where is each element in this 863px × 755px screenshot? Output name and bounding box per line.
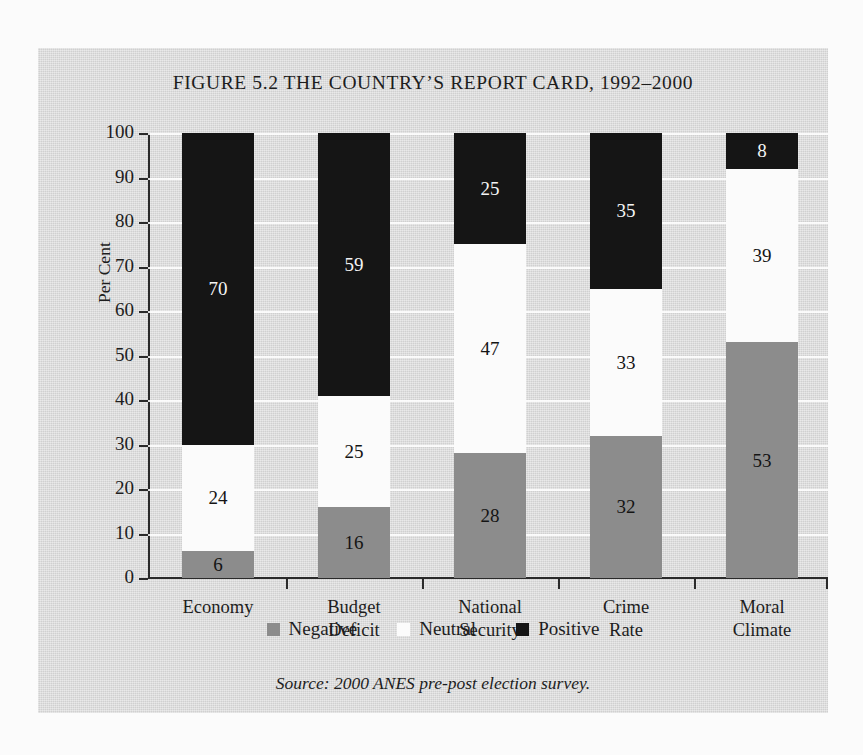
bar-group[interactable]: 53398Moral Climate <box>726 133 798 578</box>
bar-group[interactable]: 323335Crime Rate <box>590 133 662 578</box>
x-axis-tick <box>422 578 424 589</box>
x-axis-tick <box>286 578 288 589</box>
chart-legend: NegativeNeutralPositive <box>38 618 828 640</box>
bar-segment-positive[interactable]: 8 <box>726 133 798 169</box>
bar-segment-neutral[interactable]: 24 <box>182 445 254 552</box>
bar-segment-negative[interactable]: 53 <box>726 342 798 578</box>
legend-swatch-icon <box>516 623 529 636</box>
y-axis-tick <box>139 356 148 358</box>
y-axis-tick <box>139 178 148 180</box>
y-axis-tick <box>139 133 148 135</box>
legend-item[interactable]: Negative <box>267 618 358 640</box>
bar-segment-neutral[interactable]: 33 <box>590 289 662 436</box>
y-axis-tick <box>139 222 148 224</box>
bar-group[interactable]: 162559Budget Deficit <box>318 133 390 578</box>
y-axis-tick <box>139 445 148 447</box>
y-axis-tick <box>139 489 148 491</box>
legend-label: Neutral <box>419 618 476 640</box>
y-axis-tick-label: 60 <box>115 299 134 321</box>
bar-group[interactable]: 62470Economy <box>182 133 254 578</box>
bar-segment-negative[interactable]: 16 <box>318 507 390 578</box>
y-axis-tick <box>139 534 148 536</box>
bar-segment-negative[interactable]: 28 <box>454 453 526 578</box>
legend-label: Negative <box>289 618 358 640</box>
y-axis-tick <box>139 578 148 580</box>
y-axis-tick-label: 40 <box>115 388 134 410</box>
y-axis-tick <box>139 400 148 402</box>
bar-segment-positive[interactable]: 59 <box>318 133 390 396</box>
x-axis-tick <box>558 578 560 589</box>
y-axis-tick <box>139 311 148 313</box>
y-axis-tick-label: 20 <box>115 477 134 499</box>
x-axis-tick <box>826 578 828 589</box>
bar-segment-positive[interactable]: 35 <box>590 133 662 289</box>
legend-item[interactable]: Neutral <box>397 618 476 640</box>
bar-segment-positive[interactable]: 70 <box>182 133 254 445</box>
x-axis-tick <box>694 578 696 589</box>
y-axis-title: Per Cent <box>94 242 115 303</box>
y-axis-tick-label: 90 <box>115 166 134 188</box>
bar-segment-neutral[interactable]: 39 <box>726 169 798 343</box>
y-axis-tick-label: 0 <box>125 566 135 588</box>
plot-area: 0102030405060708090100 62470Economy16255… <box>148 133 828 578</box>
y-axis-tick-label: 30 <box>115 433 134 455</box>
y-axis-tick-label: 80 <box>115 210 134 232</box>
scanned-page: FIGURE 5.2 THE COUNTRY’S REPORT CARD, 19… <box>0 0 863 755</box>
y-axis-tick-label: 70 <box>115 255 134 277</box>
bar-segment-positive[interactable]: 25 <box>454 133 526 244</box>
bar-segment-negative[interactable]: 6 <box>182 551 254 578</box>
chart-title: FIGURE 5.2 THE COUNTRY’S REPORT CARD, 19… <box>38 72 828 94</box>
y-axis-tick-label: 100 <box>106 121 135 143</box>
legend-swatch-icon <box>397 623 410 636</box>
figure-panel: FIGURE 5.2 THE COUNTRY’S REPORT CARD, 19… <box>38 48 828 713</box>
bar-segment-neutral[interactable]: 47 <box>454 244 526 453</box>
y-axis-tick-label: 10 <box>115 522 134 544</box>
legend-item[interactable]: Positive <box>516 618 599 640</box>
bar-segment-negative[interactable]: 32 <box>590 436 662 578</box>
source-note: Source: 2000 ANES pre-post election surv… <box>38 673 828 694</box>
y-axis-tick-label: 50 <box>115 344 134 366</box>
x-axis-category-label: Economy <box>183 596 254 619</box>
bar-segment-neutral[interactable]: 25 <box>318 396 390 507</box>
legend-swatch-icon <box>267 623 280 636</box>
legend-label: Positive <box>538 618 599 640</box>
bar-group[interactable]: 284725National Security <box>454 133 526 578</box>
y-axis-tick <box>139 267 148 269</box>
